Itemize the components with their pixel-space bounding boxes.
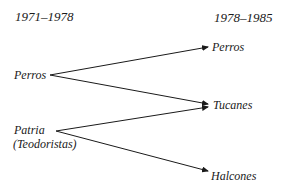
edge-patria-to-tucanes [56, 107, 208, 131]
edges-layer [0, 0, 284, 187]
edge-perros_old-to-tucanes [50, 75, 208, 104]
edge-patria-to-halcones [56, 131, 208, 171]
edge-perros_old-to-perros_new [50, 47, 208, 75]
